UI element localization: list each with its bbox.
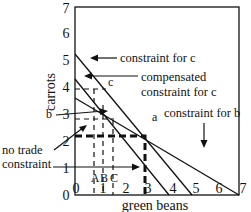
marker-A-label: A [91, 171, 100, 185]
x-tick-5: 5 [193, 181, 200, 196]
x-tick-7: 7 [240, 181, 247, 196]
y-tick-6: 6 [63, 26, 70, 41]
constraint-c-label: constraint for c [120, 51, 196, 65]
no-trade-label-line1: no trade [2, 143, 43, 157]
compensated-label-line1: compensated [141, 70, 207, 84]
marker-C-label: C [110, 171, 118, 185]
x-tick-2: 2 [123, 181, 130, 196]
x-axis-title: green beans [122, 198, 188, 212]
marker-B-label: B [100, 171, 108, 185]
arrow-right-icon [132, 164, 140, 171]
y-tick-7: 7 [63, 1, 70, 16]
y-tick-0: 0 [63, 188, 70, 203]
y-tick-4: 4 [63, 80, 70, 95]
budget-constraint-diagram: 0 1 2 3 4 5 6 7 0 1 2 3 4 5 6 7 green be… [0, 0, 251, 212]
y-axis-title: carrots [43, 73, 58, 111]
x-tick-0: 0 [73, 181, 80, 196]
no-trade-arrow-icon [79, 125, 87, 132]
x-tick-4: 4 [170, 181, 177, 196]
arrow-down-icon [201, 140, 208, 148]
no-trade-label-line2: constraint [2, 157, 52, 171]
arrow-left-icon [84, 73, 92, 80]
point-b-label: b [46, 107, 52, 121]
point-a-label: a [152, 110, 158, 124]
y-tick-1: 1 [63, 161, 70, 176]
constraint-b-label: constraint for b [164, 106, 240, 120]
y-tick-labels: 0 1 2 3 4 5 6 7 [63, 1, 70, 203]
point-c-label: c [108, 75, 113, 89]
y-tick-5: 5 [63, 53, 70, 68]
compensated-label-line2: constraint for c [141, 85, 217, 99]
arrow-left-icon [90, 55, 98, 62]
